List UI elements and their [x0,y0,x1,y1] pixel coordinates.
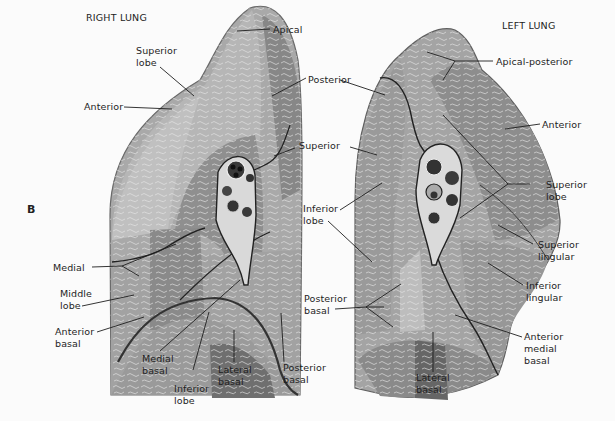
label-left-apical-posterior: Apical-posterior [496,56,573,68]
lung-segments-figure: RIGHT LUNG LEFT LUNG B Apical Superior l… [0,0,615,421]
label-left-inferior-lobe-line2: lobe [303,215,324,227]
label-left-anterior-medial-basal-line2: medial [524,343,557,355]
label-right-posterior: Posterior [308,74,351,86]
label-right-superior-lobe-line2: lobe [136,57,157,69]
label-left-posterior-basal-line2: basal [304,305,330,317]
label-right-posterior-basal-line1: Posterior [283,362,326,374]
label-right-middle-lobe-line1: Middle [60,288,92,300]
label-left-lateral-basal-line2: basal [416,384,442,396]
label-left-anterior-medial-basal-line3: basal [524,355,550,367]
label-right-medial-basal-line1: Medial [142,353,174,365]
label-right-medial-basal-line2: basal [142,365,168,377]
label-right-anterior-basal-line2: basal [55,338,81,350]
right-lung-title: RIGHT LUNG [86,12,147,23]
label-left-inferior-lingular-line1: Inferior [526,280,561,292]
label-right-superior-lobe-line1: Superior [136,45,177,57]
label-left-anterior: Anterior [542,119,581,131]
label-right-apical: Apical [273,24,302,36]
label-left-lateral-basal-line1: Lateral [416,372,450,384]
label-left-superior-lingular-line1: Superior [538,239,579,251]
label-right-superior: Superior [299,140,340,152]
label-right-lateral-basal-line1: Lateral [218,364,252,376]
label-left-superior-lobe-line1: Superior [546,179,587,191]
label-right-middle-lobe-line2: lobe [60,300,81,312]
label-left-posterior-basal-line1: Posterior [304,293,347,305]
label-right-lateral-basal-line2: basal [218,376,244,388]
left-lung-title: LEFT LUNG [502,20,555,31]
label-right-medial: Medial [53,262,85,274]
label-right-posterior-basal-line2: basal [283,374,309,386]
label-right-inferior-lobe-line1: Inferior [174,383,209,395]
label-right-anterior: Anterior [84,101,123,113]
panel-letter: B [27,203,35,216]
label-left-superior-lingular-line2: lingular [538,251,575,263]
label-left-superior-lobe-line2: lobe [546,191,567,203]
label-right-inferior-lobe-line2: lobe [174,395,195,407]
label-left-inferior-lingular-line2: lingular [526,292,563,304]
label-left-anterior-medial-basal-line1: Anterior [524,331,563,343]
label-right-anterior-basal-line1: Anterior [55,326,94,338]
label-left-inferior-lobe-line1: Inferior [303,203,338,215]
